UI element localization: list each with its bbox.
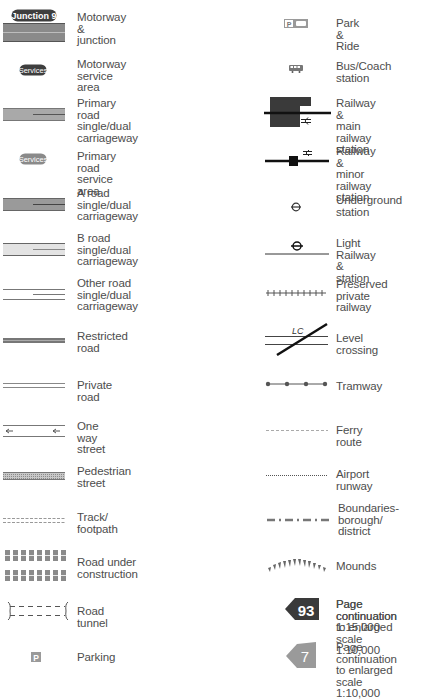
boundary-line-icon [267, 518, 329, 522]
track-footpath-icon [3, 518, 65, 523]
minor-railway-station-icon [265, 150, 329, 168]
svg-text:Junction 9: Junction 9 [11, 11, 56, 21]
legend-label: Road tunnel [77, 606, 108, 629]
svg-text:7: 7 [301, 648, 309, 665]
legend-label: Restricted road [77, 331, 128, 354]
legend-label: Airport runway [336, 469, 372, 492]
services-badge-icon: Services [19, 153, 47, 165]
park-and-ride-icon: P [284, 19, 308, 28]
underground-icon [291, 202, 301, 212]
other-road-line-icon [3, 289, 65, 300]
legend-label: Tramway [336, 381, 382, 393]
private-road-line-icon [3, 383, 65, 388]
legend-label: Primary road single/dual carriageway [77, 98, 138, 144]
legend-label: Ferry route [336, 425, 362, 448]
pedestrian-street-icon [3, 472, 65, 480]
page-continuation-icon: 93 [285, 597, 319, 621]
legend-label: Page continuation 1:15,000 [336, 599, 397, 634]
svg-text:P: P [33, 653, 39, 663]
preserved-railway-icon [266, 290, 326, 296]
ferry-route-icon [266, 429, 328, 432]
services-badge-icon: Services [19, 64, 47, 76]
bus-icon [289, 65, 303, 73]
svg-text:LC: LC [292, 326, 304, 336]
legend-label: Preserved private railway [336, 279, 388, 314]
light-railway-icon [265, 241, 329, 255]
legend-label: Park & Ride [336, 18, 359, 53]
svg-text:Services: Services [19, 155, 47, 164]
b-road-line-icon [3, 243, 65, 256]
legend-label: Other road single/dual carriageway [77, 278, 138, 313]
a-road-line-icon [3, 198, 65, 211]
mounds-icon [266, 553, 328, 573]
legend-label: Parking [77, 652, 115, 664]
svg-text:93: 93 [298, 602, 315, 619]
tramway-icon [265, 381, 329, 387]
legend-label: Road under construction [77, 557, 138, 580]
construction-icon [5, 550, 67, 584]
road-tunnel-icon [5, 601, 71, 621]
svg-text:Services: Services [19, 66, 47, 75]
main-railway-station-icon [264, 97, 332, 129]
page-continuation-enlarged-icon: 7 [286, 641, 316, 669]
junction-badge-icon: Junction 9 [11, 9, 57, 22]
one-way-arrow-icon [3, 425, 65, 437]
restricted-road-line-icon [3, 338, 65, 343]
legend-label: Track/ footpath [77, 512, 118, 535]
legend-label: B road single/dual carriageway [77, 233, 138, 268]
airport-runway-icon [266, 474, 328, 477]
legend-label: Page continuation to enlarged scale 1:10… [336, 642, 397, 700]
legend-label: A road single/dual carriageway [77, 188, 138, 223]
legend-label: Boundaries- borough/ district [338, 503, 399, 538]
parking-icon: P [31, 652, 41, 662]
legend-label: Pedestrian street [77, 466, 131, 489]
legend-label: Private road [77, 380, 112, 403]
motorway-line-icon [3, 23, 65, 42]
legend-label: Bus/Coach station [336, 61, 391, 84]
legend-label: Mounds [336, 561, 376, 573]
legend-label: Motorway & junction [77, 12, 126, 47]
primary-road-line-icon [3, 108, 65, 121]
legend-label: One way street [77, 421, 105, 456]
svg-text:P: P [287, 21, 292, 28]
legend-label: Underground station [336, 195, 402, 218]
legend-label: Level crossing [336, 333, 378, 356]
level-crossing-icon: LC [265, 322, 331, 358]
legend-label: Motorway service area [77, 59, 126, 94]
